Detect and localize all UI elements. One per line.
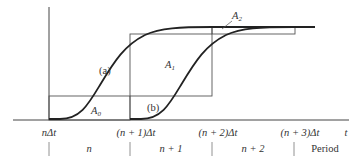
period-n2: n + 2 xyxy=(242,143,266,154)
tick-0: nΔt xyxy=(42,127,57,138)
curve-b-label: (b) xyxy=(147,102,160,114)
tick-1: (n + 1)Δt xyxy=(117,127,157,139)
period-n: n xyxy=(86,143,91,154)
period-n1: n + 1 xyxy=(160,143,183,154)
area-a2-label: A2 xyxy=(231,10,242,23)
curve-a-label: (a) xyxy=(99,65,111,77)
tick-2: (n + 2)Δt xyxy=(199,127,239,139)
diagram-canvas: (a) (b) A0 A1 A2 nΔt (n + 1)Δt (n + 2)Δt… xyxy=(0,0,363,164)
tick-3: (n + 3)Δt xyxy=(281,127,321,139)
x-axis-label: t xyxy=(345,127,349,138)
area-a1-label: A1 xyxy=(164,59,175,72)
period-caption: Period xyxy=(311,143,339,154)
curve-a xyxy=(49,27,315,119)
rect-a0 xyxy=(49,96,130,120)
area-a0-label: A0 xyxy=(90,105,101,118)
